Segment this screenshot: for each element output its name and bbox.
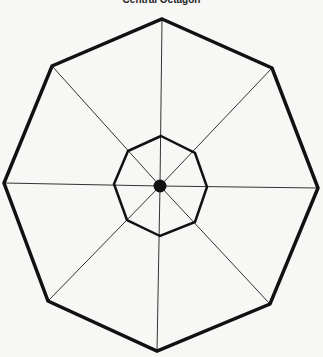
center-dot xyxy=(154,180,167,193)
spoke-line xyxy=(48,186,160,301)
octagon-diagram xyxy=(0,0,323,357)
spoke-line xyxy=(157,186,160,351)
spoke-line xyxy=(4,183,160,186)
spoke-line xyxy=(52,66,160,186)
spoke-line xyxy=(160,68,272,186)
spoke-line xyxy=(160,19,162,186)
spoke-line xyxy=(160,186,270,304)
spoke-line xyxy=(160,186,318,188)
